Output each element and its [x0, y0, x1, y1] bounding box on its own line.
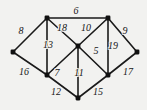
graph-vertex-v-left	[11, 50, 16, 55]
edge-weight-label-13: 13	[43, 40, 53, 50]
graph-vertex-v-bottom-right	[106, 73, 111, 78]
vertices-layer	[11, 16, 140, 101]
graph-vertex-v-top-right	[106, 16, 111, 21]
edge-weight-label-8: 8	[19, 26, 24, 36]
edges-layer	[13, 18, 137, 98]
graph-canvas	[0, 0, 147, 110]
edge-weight-label-11: 11	[74, 68, 83, 78]
graph-edge-7	[47, 46, 78, 75]
graph-vertex-v-top-left	[45, 16, 50, 21]
edge-weight-label-7: 7	[55, 68, 60, 78]
edge-weight-label-10: 10	[81, 23, 91, 33]
graph-vertex-v-center	[76, 44, 81, 49]
edge-weight-label-17: 17	[123, 67, 133, 77]
graph-vertex-v-right	[135, 50, 140, 55]
edge-weight-label-12: 12	[51, 87, 61, 97]
graph-vertex-v-bottom-center	[76, 96, 81, 101]
edge-weight-label-19: 19	[108, 41, 118, 51]
edge-weight-label-16: 16	[19, 67, 29, 77]
edge-weight-label-15: 15	[93, 87, 103, 97]
graph-vertex-v-bottom-left	[45, 73, 50, 78]
edge-weight-label-18: 18	[57, 23, 67, 33]
edge-weight-label-6: 6	[74, 6, 79, 16]
edge-weight-label-9: 9	[123, 26, 128, 36]
graph-figure: 68181091351916711171215	[0, 0, 147, 110]
edge-weight-label-5: 5	[94, 46, 99, 56]
